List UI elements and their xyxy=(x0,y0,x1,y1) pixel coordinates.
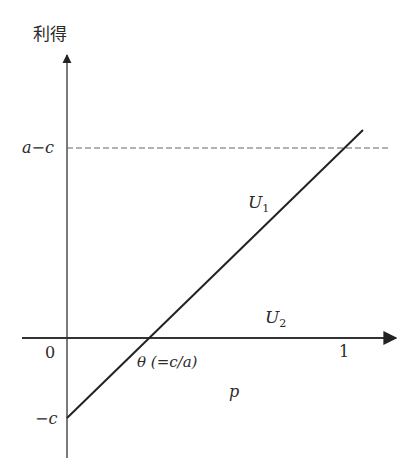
theta-label: θ (=c/a) xyxy=(137,353,198,371)
payoff-diagram: 利得 a−c 0 −c 1 θ (=c/a) p U1 U2 xyxy=(0,0,411,475)
u1-line xyxy=(67,130,363,418)
x-axis-label: p xyxy=(229,382,239,401)
tick-origin: 0 xyxy=(45,343,55,362)
tick-one: 1 xyxy=(339,342,349,361)
y-axis-label: 利得 xyxy=(33,24,67,44)
tick-a-minus-c: a−c xyxy=(22,138,54,157)
u2-label: U2 xyxy=(265,307,286,330)
tick-minus-c: −c xyxy=(35,409,57,428)
u1-label: U1 xyxy=(248,192,269,215)
